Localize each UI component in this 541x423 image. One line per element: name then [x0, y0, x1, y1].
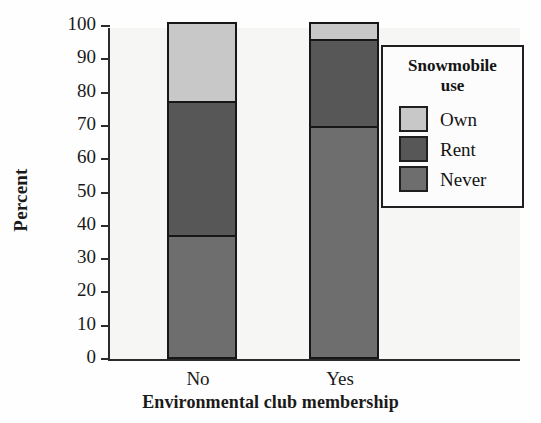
- y-axis-tick-mark: [101, 158, 110, 160]
- y-axis-tick-mark: [101, 291, 110, 293]
- bar-yes: [309, 22, 379, 359]
- legend-swatch-rent: [399, 136, 428, 162]
- legend-entries: OwnRentNever: [383, 104, 522, 194]
- y-axis-tick-label: 50: [77, 180, 96, 202]
- y-axis-tick-mark: [101, 125, 110, 127]
- y-axis-tick-mark: [101, 358, 110, 360]
- legend-entry-own: Own: [383, 104, 522, 134]
- x-axis-title: Environmental club membership: [0, 392, 541, 413]
- legend-swatch-own: [399, 106, 428, 132]
- bar-segment-own: [311, 24, 377, 39]
- y-axis-tick-label: 20: [77, 279, 96, 301]
- legend: Snowmobile use OwnRentNever: [381, 45, 524, 208]
- y-axis-tick-label: 80: [77, 80, 96, 102]
- bar-segment-never: [311, 126, 377, 357]
- y-axis-tick-label: 0: [87, 346, 97, 368]
- bar-segment-own: [169, 24, 235, 101]
- bar-segment-rent: [311, 39, 377, 126]
- bar-segment-never: [169, 235, 235, 357]
- legend-title-line-1: Snowmobile: [389, 56, 516, 76]
- y-axis-tick-mark: [101, 92, 110, 94]
- legend-label-never: Never: [440, 170, 486, 189]
- y-axis-title: Percent: [10, 140, 36, 260]
- y-axis-tick-mark: [101, 58, 110, 60]
- legend-swatch-never: [399, 166, 428, 192]
- legend-title: Snowmobile use: [383, 56, 522, 104]
- y-axis-tick-mark: [101, 258, 110, 260]
- y-axis-tick-mark: [101, 25, 110, 27]
- legend-entry-never: Never: [383, 164, 522, 194]
- legend-label-own: Own: [440, 110, 477, 129]
- x-axis-label-yes: Yes: [270, 368, 410, 390]
- y-axis-tick-label: 30: [77, 246, 96, 268]
- y-axis-tick-mark: [101, 225, 110, 227]
- y-axis-tick-label: 40: [77, 213, 96, 235]
- y-axis-tick-label: 90: [77, 46, 96, 68]
- y-axis-tick-mark: [101, 192, 110, 194]
- y-axis-tick-label: 70: [77, 113, 96, 135]
- bar-no: [167, 22, 237, 359]
- legend-title-line-2: use: [389, 76, 516, 96]
- y-axis-tick-label: 60: [77, 146, 96, 168]
- y-axis-tick-label: 100: [68, 13, 97, 35]
- legend-entry-rent: Rent: [383, 134, 522, 164]
- stacked-bar-chart: Percent 0102030405060708090100 NoYes Env…: [0, 0, 541, 423]
- y-axis-tick-label: 10: [77, 313, 96, 335]
- legend-label-rent: Rent: [440, 140, 476, 159]
- y-axis-tick-mark: [101, 325, 110, 327]
- bar-segment-rent: [169, 101, 235, 236]
- x-axis-label-no: No: [128, 368, 268, 390]
